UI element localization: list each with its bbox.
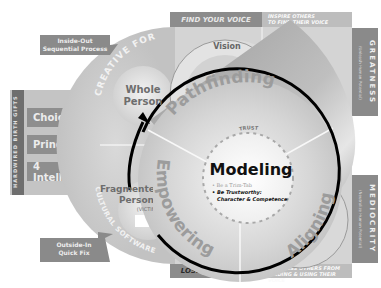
fragmented-line1: Fragmented: [100, 184, 158, 195]
outside-in-line2: Quick Fix: [40, 249, 108, 257]
inside-out-line1: Inside-Out: [40, 37, 110, 45]
modeling-bullets: • Be a Trim-Tab • Be Trustworthy: Charac…: [212, 182, 302, 203]
modeling-title: Modeling: [206, 160, 296, 179]
bullet-trim-tab: • Be a Trim-Tab: [212, 182, 302, 189]
vision-label: Vision: [207, 42, 247, 51]
whole-person-line1: Whole: [115, 84, 171, 96]
outside-in-callout: Outside-In Quick Fix: [40, 241, 108, 261]
fragmented-person-label: Fragmented Person (VICTIM): [100, 184, 158, 217]
inside-out-line2: Sequential Process: [40, 45, 110, 53]
bullet-trim-tab-text: Be a Trim-Tab: [217, 182, 253, 188]
victim-label: (VICTIM): [100, 206, 158, 213]
inside-out-callout: Inside-Out Sequential Process: [40, 35, 110, 57]
fragmented-line2: Person: [100, 195, 158, 206]
whole-person-line2: Person: [115, 96, 171, 108]
whole-person-label: Whole Person: [115, 84, 171, 108]
outside-in-line1: Outside-In: [40, 241, 108, 249]
bullet-trustworthy: • Be Trustworthy:: [212, 189, 302, 196]
bullet-character: Character & Competence: [212, 196, 302, 203]
bullet-trustworthy-text: Be Trustworthy:: [217, 189, 262, 195]
